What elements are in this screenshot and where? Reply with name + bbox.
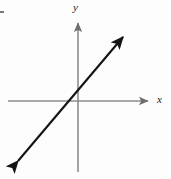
x-axis-label: x (157, 94, 162, 105)
graph-canvas (0, 0, 171, 179)
coordinate-plane-figure: y x (0, 0, 171, 179)
plotted-line (18, 37, 123, 161)
edge-artifact-mark (0, 11, 4, 13)
y-axis-label: y (73, 2, 78, 13)
